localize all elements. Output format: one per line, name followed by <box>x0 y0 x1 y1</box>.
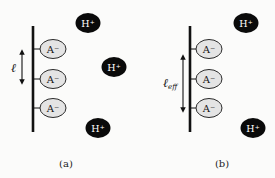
length-label: ℓ <box>11 61 16 75</box>
anion-group: A⁻ A⁻ A⁻ <box>190 40 222 118</box>
panel-caption: (a) <box>59 158 73 169</box>
anion-group: A⁻ A⁻ A⁻ <box>33 40 66 118</box>
effective-length-label: ℓeff <box>163 76 178 91</box>
anion-label: A⁻ <box>202 103 216 114</box>
anion-label: A⁻ <box>202 44 216 55</box>
length-subscript: eff <box>168 83 178 91</box>
cation-label: H⁺ <box>239 18 252 29</box>
cation-label: H⁺ <box>81 18 94 29</box>
cation-group: H⁺ H⁺ H⁺ <box>76 13 127 138</box>
anion-label: A⁻ <box>46 44 60 55</box>
panel-caption: (b) <box>215 158 229 169</box>
anion-label: A⁻ <box>46 74 60 85</box>
cation-label: H⁺ <box>246 123 259 134</box>
panel-b: A⁻ A⁻ A⁻ ℓeff H⁺ H⁺ (b) <box>163 13 266 169</box>
anion-label: A⁻ <box>202 74 216 85</box>
anion-label: A⁻ <box>46 103 60 114</box>
cation-label: H⁺ <box>107 62 120 73</box>
cation-label: H⁺ <box>91 123 104 134</box>
cation-group: H⁺ H⁺ <box>234 13 266 138</box>
diagram-canvas: A⁻ A⁻ A⁻ ℓ H⁺ H⁺ H⁺ (a) A⁻ <box>0 0 275 178</box>
panel-a: A⁻ A⁻ A⁻ ℓ H⁺ H⁺ H⁺ (a) <box>11 13 127 169</box>
